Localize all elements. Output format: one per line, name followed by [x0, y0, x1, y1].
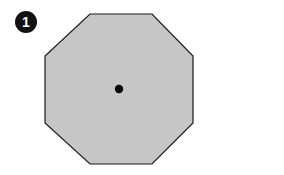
figure-number-badge: 1 — [15, 11, 37, 33]
center-point-dot — [115, 85, 123, 93]
badge-label: 1 — [15, 11, 37, 33]
figure-canvas — [0, 0, 284, 175]
